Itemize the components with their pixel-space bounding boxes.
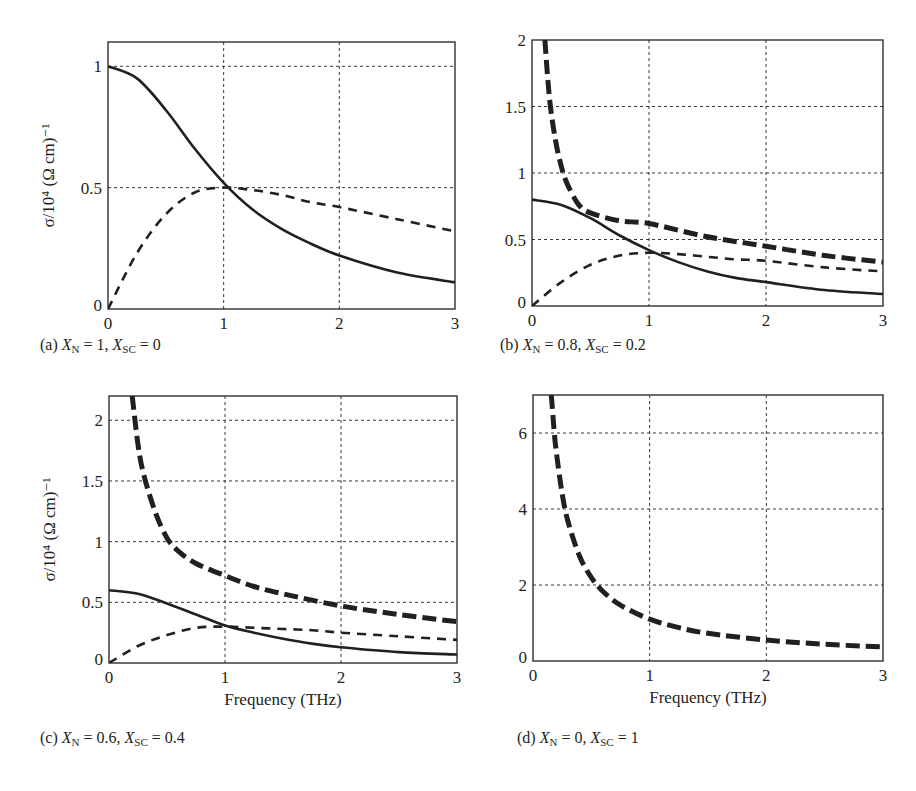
plot-frame	[109, 396, 457, 663]
caption-xsc-value: 0	[153, 336, 161, 353]
plot-frame	[533, 395, 883, 661]
x-tick-label: 2	[335, 314, 344, 333]
x-tick-label: 2	[337, 668, 346, 687]
x-tick-label: 2	[762, 311, 771, 330]
y-tick-label: 2	[518, 31, 527, 50]
series-line-dashed	[532, 253, 883, 306]
y-tick-label: 2	[519, 576, 528, 595]
y-tick-label: 1	[94, 57, 103, 76]
y-tick-label: 1.5	[82, 472, 103, 491]
y-tick-label: 2	[95, 411, 104, 430]
series-group	[109, 396, 457, 663]
plot-frame	[108, 42, 455, 309]
y-tick-label: 1	[518, 164, 527, 183]
caption-xn-value: 0.8	[557, 336, 577, 353]
y-tick-label: 0	[94, 296, 103, 315]
caption-xsc-value: 0.2	[626, 336, 646, 353]
panel-b: 012300.511.52	[505, 31, 888, 330]
caption-xn-value: 0	[574, 729, 582, 746]
caption-d: (d) XN = 0, XSC = 1	[517, 729, 639, 748]
panel-c: 012300.511.52Frequency (THz)σ/10⁴ (Ω cm)…	[40, 396, 461, 709]
x-tick-label: 3	[879, 666, 888, 685]
y-axis-title: σ/10⁴ (Ω cm)⁻¹	[40, 477, 59, 581]
y-tick-label: 0	[518, 293, 527, 312]
caption-a: (a) XN = 1, XSC = 0	[40, 336, 161, 355]
x-tick-label: 0	[105, 668, 114, 687]
grid-lines	[533, 395, 883, 661]
series-line-dashed	[109, 627, 457, 663]
x-tick-label: 0	[529, 666, 538, 685]
series-line-solid	[109, 590, 457, 654]
x-tick-label: 1	[645, 666, 654, 685]
caption-c: (c) XN = 0.6, XSC = 0.4	[40, 729, 185, 748]
x-axis-title: Frequency (THz)	[649, 688, 767, 707]
caption-prefix: (b)	[500, 336, 519, 353]
y-tick-label: 0.5	[505, 231, 526, 250]
y-tick-label: 1	[95, 533, 104, 552]
y-tick-label: 0	[519, 648, 528, 667]
caption-prefix: (d)	[517, 729, 536, 746]
grid-lines	[108, 42, 455, 309]
x-tick-label: 0	[104, 314, 113, 333]
caption-xsc-value: 1	[631, 729, 639, 746]
panel-a: 012300.51σ/10⁴ (Ω cm)⁻¹	[39, 42, 459, 333]
series-line-solid	[108, 66, 455, 282]
x-tick-label: 1	[645, 311, 654, 330]
y-tick-label: 0	[95, 650, 104, 669]
x-tick-label: 3	[879, 311, 888, 330]
y-axis-title: σ/10⁴ (Ω cm)⁻¹	[39, 123, 58, 227]
grid-lines	[532, 40, 883, 306]
series-line-thick-dashed	[132, 396, 457, 622]
x-tick-label: 2	[762, 666, 771, 685]
caption-xn-value: 1	[97, 336, 105, 353]
y-tick-label: 1.5	[505, 98, 526, 117]
x-tick-label: 1	[221, 668, 230, 687]
y-tick-label: 4	[519, 500, 528, 519]
caption-prefix: (a)	[40, 336, 58, 353]
series-line-dashed	[108, 188, 455, 309]
grid-lines	[109, 396, 457, 663]
caption-xsc-value: 0.4	[165, 729, 185, 746]
caption-b: (b) XN = 0.8, XSC = 0.2	[500, 336, 646, 355]
x-tick-label: 0	[528, 311, 537, 330]
caption-prefix: (c)	[40, 729, 58, 746]
x-tick-label: 3	[451, 314, 460, 333]
figure-canvas: 012300.51σ/10⁴ (Ω cm)⁻¹ 012300.511.52 01…	[0, 0, 916, 791]
x-axis-title: Frequency (THz)	[224, 690, 342, 709]
series-line-solid	[532, 200, 883, 294]
caption-xn-value: 0.6	[97, 729, 117, 746]
series-line-thick-dashed	[545, 40, 883, 262]
panel-d: 01230246Frequency (THz)	[519, 395, 888, 707]
y-tick-label: 0.5	[82, 593, 103, 612]
x-tick-label: 1	[219, 314, 228, 333]
y-tick-label: 6	[519, 424, 528, 443]
x-tick-label: 3	[453, 668, 462, 687]
y-tick-label: 0.5	[81, 179, 102, 198]
